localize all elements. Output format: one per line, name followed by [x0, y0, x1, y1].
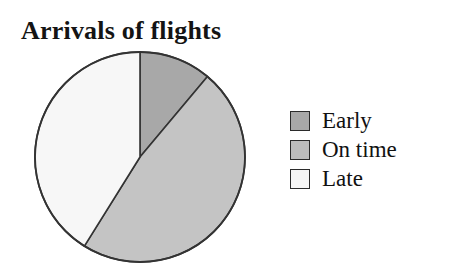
legend-label-early: Early	[322, 108, 372, 133]
legend-item-late[interactable]: Late	[290, 164, 450, 193]
legend-label-late: Late	[322, 166, 363, 191]
pie-chart-figure: Arrivals of flights Early On time Late	[0, 0, 456, 277]
legend-swatch-on-time-icon	[290, 140, 310, 160]
legend-swatch-late-icon	[290, 169, 310, 189]
page-title: Arrivals of flights	[21, 16, 221, 46]
legend-label-on-time: On time	[322, 137, 397, 162]
legend-item-early[interactable]: Early	[290, 106, 450, 135]
pie-slices-group	[35, 52, 245, 262]
pie-chart-plot-area	[33, 50, 247, 264]
legend-swatch-early-icon	[290, 111, 310, 131]
chart-legend: Early On time Late	[290, 106, 450, 193]
pie-chart-svg	[33, 50, 247, 264]
legend-item-on-time[interactable]: On time	[290, 135, 450, 164]
